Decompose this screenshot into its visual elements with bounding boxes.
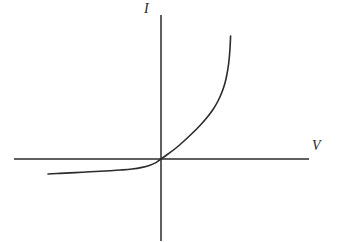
diode-iv-figure: I V (0, 0, 339, 242)
plot-canvas (0, 0, 339, 242)
x-axis-label-voltage: V (312, 139, 321, 153)
plot-background (0, 0, 339, 242)
y-axis-label-current: I (144, 2, 149, 16)
